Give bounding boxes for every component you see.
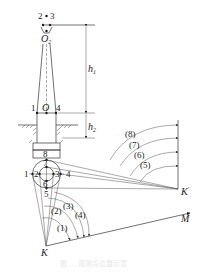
angle-1-label: (1) [57, 223, 68, 233]
angle-5-label: (5) [140, 160, 151, 170]
plan-circle: 1 2 3 4 5 6 7 8 [24, 149, 71, 199]
angle-6-label: (6) [134, 150, 145, 160]
base-points: 1 O 4 [31, 102, 61, 114]
top-points: 2 3 O2 [38, 11, 95, 45]
angle-8-label: (8) [125, 129, 136, 139]
foundation [18, 113, 78, 158]
h2-label: h2 [88, 121, 96, 133]
point-dot [45, 15, 47, 17]
circle-point-5-label: 5 [44, 189, 49, 199]
angle-4-label: (4) [75, 210, 86, 220]
base-point-4-label: 4 [56, 103, 61, 113]
circle-point-3-label: 3 [55, 169, 60, 179]
angle-3-label: (3) [63, 201, 74, 211]
base-point-1-label: 1 [31, 103, 36, 113]
o2-label: O2 [41, 33, 51, 45]
k-prime-label: K′ [180, 186, 190, 197]
angle-2-label: (2) [51, 206, 62, 216]
circle-point-6-label: 6 [43, 179, 48, 189]
circle-point-8-label: 8 [43, 149, 48, 159]
point-3-label: 3 [50, 11, 55, 21]
circle-point-2-label: 2 [34, 169, 39, 179]
circle-point-1-label: 1 [24, 169, 29, 179]
figure-caption: 图 … 观测点位置示意 [60, 259, 127, 268]
h1-label: h1 [88, 63, 96, 75]
sightlines-k-prime: (8) (7) (6) (5) K′ [47, 120, 190, 197]
k-label: K [40, 247, 49, 258]
angle-7-label: (7) [129, 140, 140, 150]
m-label: M [180, 213, 190, 224]
diagram-canvas: 2 3 O2 h1 h2 1 O 4 [0, 0, 215, 272]
circle-point-7-label: 7 [43, 158, 48, 168]
height-dimensions: h1 h2 [58, 26, 96, 138]
point-2-label: 2 [38, 11, 43, 21]
o-label: O [42, 102, 49, 113]
